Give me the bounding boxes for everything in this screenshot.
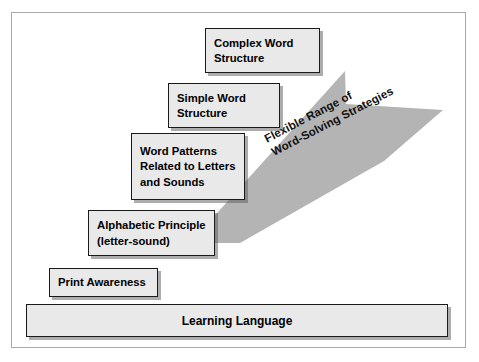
step-label-line: Word Patterns xyxy=(140,144,236,159)
base-box-learning-language[interactable]: Learning Language xyxy=(26,304,448,337)
step-label-line: Structure xyxy=(177,106,271,121)
step-label-line: Simple Word xyxy=(177,91,271,106)
step-box-simple-word-structure[interactable]: Simple Word Structure xyxy=(168,83,280,128)
step-box-print-awareness[interactable]: Print Awareness xyxy=(49,268,158,297)
diagram-canvas: Flexible Range of Word-Solving Strategie… xyxy=(0,0,479,362)
step-label-line: Structure xyxy=(214,51,311,66)
step-label-line: and Sounds xyxy=(140,175,236,190)
step-box-word-patterns[interactable]: Word Patterns Related to Letters and Sou… xyxy=(131,133,245,200)
step-label-line: Print Awareness xyxy=(58,275,149,290)
step-box-complex-word-structure[interactable]: Complex Word Structure xyxy=(205,28,320,73)
step-label-line: Alphabetic Principle xyxy=(97,218,206,233)
step-label-line: Related to Letters xyxy=(140,159,236,174)
base-box-label: Learning Language xyxy=(182,314,293,328)
step-label-line: (letter-sound) xyxy=(97,234,206,249)
step-label-line: Complex Word xyxy=(214,36,311,51)
step-box-alphabetic-principle[interactable]: Alphabetic Principle (letter-sound) xyxy=(88,210,215,256)
